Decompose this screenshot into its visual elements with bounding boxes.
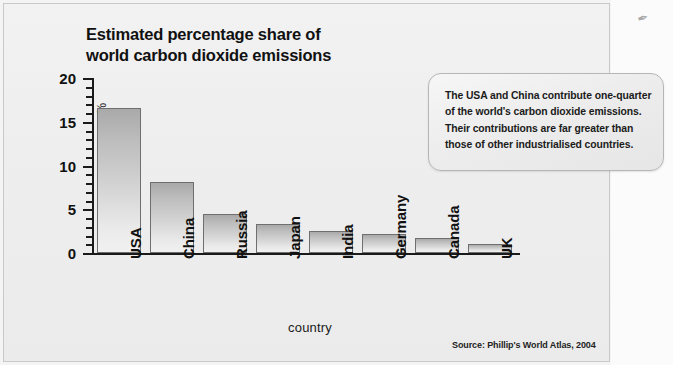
x-axis-title: country [288,320,332,335]
y-tick-minor [86,218,92,220]
y-tick-minor [86,87,92,89]
x-tick-label-japan: Japan [286,216,303,259]
y-tick-minor [86,157,92,159]
y-tick-major [83,122,92,124]
y-tick-minor [86,96,92,98]
y-tick-label: 15 [36,115,76,130]
y-axis-line [92,78,94,255]
y-tick-minor [86,192,92,194]
y-tick-minor [86,131,92,133]
x-tick-label-india: India [339,224,356,259]
x-tick-label-uk: UK [498,238,515,259]
chart-title-line-2: world carbon dioxide emissions [86,45,416,66]
x-tick-label-china: China [180,218,197,259]
y-tick-minor [86,113,92,115]
y-tick-label: 10 [36,159,76,174]
annotation-callout-box: The USA and China contribute one-quarter… [428,73,664,171]
screenshot-root: ✒ Estimated percentage share of world ca… [0,0,673,365]
page-margin-right [611,0,673,365]
y-tick-minor [86,139,92,141]
y-tick-minor [86,227,92,229]
y-tick-major [83,253,92,255]
y-tick-minor [86,201,92,203]
chart-title-line-1: Estimated percentage share of [86,24,416,45]
y-tick-label: 5 [36,202,76,217]
y-tick-label: 20 [36,71,76,86]
y-tick-minor [86,174,92,176]
x-tick-label-canada: Canada [445,205,462,259]
y-tick-minor [86,148,92,150]
page-title: Estimated percentage share of world carb… [86,24,416,67]
y-tick-minor [86,244,92,246]
annotation-callout-text: The USA and China contribute one-quarter… [445,88,653,154]
y-tick-minor [86,236,92,238]
y-tick-major [83,166,92,168]
source-attribution: Source: Phillip's World Atlas, 2004 [452,340,596,350]
x-tick-label-germany: Germany [392,195,409,259]
x-tick-label-usa: USA [127,228,144,259]
y-tick-label: 0 [36,246,76,261]
x-tick-label-russia: Russia [233,210,250,259]
y-tick-minor [86,104,92,106]
y-tick-minor [86,183,92,185]
y-tick-major [83,209,92,211]
y-tick-major [83,78,92,80]
